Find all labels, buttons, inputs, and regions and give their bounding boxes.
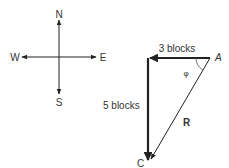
vertex-a-label: A — [214, 52, 222, 63]
compass-rose: N S W E — [10, 9, 106, 108]
vertex-c-label: C — [137, 158, 144, 168]
vector-diagram: N S W E 3 blocks A φ 5 blocks R C — [0, 0, 229, 168]
vector-triangle: 3 blocks A φ 5 blocks R C — [103, 43, 222, 168]
west-label: W — [10, 52, 20, 63]
south-label: S — [56, 97, 63, 108]
resultant-label: R — [183, 117, 191, 128]
north-label: N — [55, 9, 62, 20]
resultant-vector — [151, 58, 210, 159]
south-leg-label: 5 blocks — [103, 100, 140, 111]
angle-label: φ — [183, 69, 188, 78]
angle-arc — [196, 58, 203, 70]
east-label: E — [100, 52, 107, 63]
west-leg-label: 3 blocks — [159, 43, 196, 54]
